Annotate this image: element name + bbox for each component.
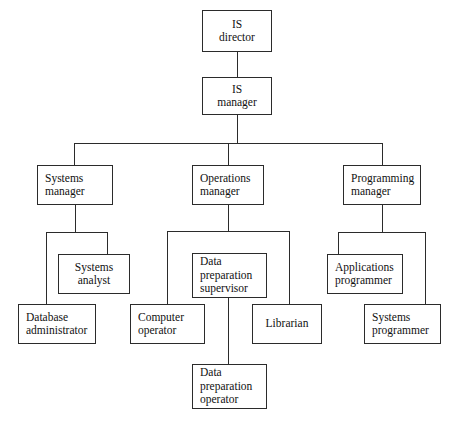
org-node-label-line: Programming xyxy=(351,172,420,186)
org-node-label: Datapreparationsupervisor xyxy=(193,255,266,296)
org-node-database-administrator[interactable]: Databaseadministrator xyxy=(18,304,96,344)
org-node-label-line: Systems xyxy=(63,261,125,275)
org-node-label-line: programmer xyxy=(372,324,440,338)
connector-line xyxy=(75,205,76,232)
connector-line xyxy=(107,232,108,255)
org-node-label: Systemsprogrammer xyxy=(365,311,440,338)
org-node-label-line: manager xyxy=(207,96,267,110)
org-node-label: Databaseadministrator xyxy=(19,311,95,338)
org-node-systems-programmer[interactable]: Systemsprogrammer xyxy=(364,304,441,344)
connector-line xyxy=(382,205,383,232)
org-node-label-line: Data xyxy=(200,255,266,269)
org-node-label-line: manager xyxy=(200,185,263,199)
org-node-computer-operator[interactable]: Computeroperator xyxy=(130,304,205,344)
org-node-label: Computeroperator xyxy=(131,311,204,338)
org-node-label-line: Librarian xyxy=(257,317,317,331)
connector-line xyxy=(167,231,289,232)
connector-line xyxy=(289,231,290,304)
org-node-label-line: manager xyxy=(45,185,112,199)
org-node-label-line: IS xyxy=(207,18,267,32)
org-node-label-line: Systems xyxy=(372,311,440,325)
org-node-label: Systemsanalyst xyxy=(59,261,129,288)
org-node-label-line: preparation xyxy=(200,380,266,394)
org-node-label: Applicationsprogrammer xyxy=(328,261,402,288)
org-node-label-line: preparation xyxy=(200,269,266,283)
connector-line xyxy=(228,143,229,166)
org-node-label-line: operator xyxy=(200,393,266,407)
org-node-label-line: Computer xyxy=(138,311,204,325)
org-node-label-line: Data xyxy=(200,366,266,380)
org-node-is-manager[interactable]: ISmanager xyxy=(202,77,272,115)
org-node-label-line: Systems xyxy=(45,172,112,186)
org-chart: ISdirectorISmanagerSystemsmanagerOperati… xyxy=(0,0,460,425)
connector-line xyxy=(425,232,426,304)
org-node-label: Systemsmanager xyxy=(38,172,112,199)
org-node-data-preparation-supervisor[interactable]: Datapreparationsupervisor xyxy=(192,253,267,298)
connector-line xyxy=(74,143,75,166)
org-node-label-line: Applications xyxy=(335,261,402,275)
org-node-label: Librarian xyxy=(253,317,321,331)
org-node-applications-programmer[interactable]: Applicationsprogrammer xyxy=(327,254,403,294)
org-node-operations-manager[interactable]: Operationsmanager xyxy=(192,165,264,205)
org-node-programming-manager[interactable]: Programmingmanager xyxy=(343,165,421,205)
org-node-label-line: analyst xyxy=(63,274,125,288)
org-node-label-line: director xyxy=(207,31,267,45)
connector-line xyxy=(237,115,238,143)
org-node-label-line: programmer xyxy=(335,274,402,288)
connector-line xyxy=(382,143,383,166)
connector-line xyxy=(228,298,229,364)
org-node-label: Programmingmanager xyxy=(344,172,420,199)
org-node-label-line: supervisor xyxy=(200,282,266,296)
org-node-systems-manager[interactable]: Systemsmanager xyxy=(37,165,113,205)
org-node-label-line: manager xyxy=(351,185,420,199)
org-node-label: ISdirector xyxy=(203,18,271,45)
connector-line xyxy=(167,231,168,304)
connector-line xyxy=(237,52,238,77)
org-node-is-director[interactable]: ISdirector xyxy=(202,10,272,52)
org-node-label-line: Operations xyxy=(200,172,263,186)
org-node-data-preparation-operator[interactable]: Datapreparationoperator xyxy=(192,364,267,409)
connector-line xyxy=(46,232,107,233)
org-node-label-line: IS xyxy=(207,83,267,97)
org-node-label: Datapreparationoperator xyxy=(193,366,266,407)
org-node-librarian[interactable]: Librarian xyxy=(252,304,322,344)
org-node-systems-analyst[interactable]: Systemsanalyst xyxy=(58,254,130,294)
org-node-label: ISmanager xyxy=(203,83,271,110)
connector-line xyxy=(228,205,229,231)
connector-line xyxy=(338,232,425,233)
org-node-label-line: administrator xyxy=(26,324,95,338)
org-node-label-line: operator xyxy=(138,324,204,338)
org-node-label: Operationsmanager xyxy=(193,172,263,199)
org-node-label-line: Database xyxy=(26,311,95,325)
connector-line xyxy=(46,232,47,304)
connector-line xyxy=(338,232,339,255)
